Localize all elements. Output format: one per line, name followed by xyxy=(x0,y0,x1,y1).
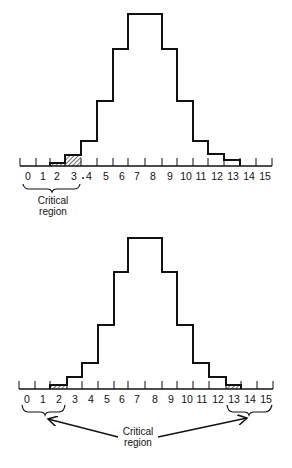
bottom-tick-label: 5 xyxy=(104,393,110,405)
figure: 0 1 2 3 4 5 6 7 8 9 10 11 12 13 14 15 Cr… xyxy=(0,0,292,468)
bottom-tick-label: 9 xyxy=(168,393,174,405)
bottom-tick-label: 4 xyxy=(88,393,94,405)
bottom-tick-label: 2 xyxy=(56,393,62,405)
bottom-tick-label: 13 xyxy=(228,393,240,405)
bottom-tick-label: 11 xyxy=(197,393,208,405)
top-tick-label: 8 xyxy=(150,170,156,182)
top-tick-label: 1 xyxy=(40,170,46,182)
bottom-tick-label: 7 xyxy=(134,393,140,405)
bottom-tick-label: 10 xyxy=(181,393,193,405)
top-tick-label: 4 xyxy=(86,170,92,182)
bottom-tick-label: 6 xyxy=(119,393,125,405)
bottom-annotation-line2: region xyxy=(124,437,152,448)
bottom-tick-label: 14 xyxy=(244,393,256,405)
top-tick-label: 7 xyxy=(134,170,140,182)
top-tick-label: 5 xyxy=(103,170,109,182)
top-critical-brace xyxy=(23,184,80,192)
top-chart: 0 1 2 3 4 5 6 7 8 9 10 11 12 13 14 15 Cr… xyxy=(20,14,272,217)
top-tick-label: 11 xyxy=(196,170,207,182)
left-arrow-icon xyxy=(48,419,118,437)
bottom-right-critical-brace xyxy=(227,405,272,415)
top-annotation-line1: Critical xyxy=(38,195,69,206)
bottom-tick-label: 3 xyxy=(72,393,78,405)
top-tick-label: 2 xyxy=(54,170,60,182)
top-tick-label: 3 xyxy=(71,170,77,182)
top-tick-label: 14 xyxy=(243,170,255,182)
dot-mark xyxy=(82,177,84,179)
top-tick-label: 13 xyxy=(227,170,239,182)
top-tick-label: 6 xyxy=(119,170,125,182)
bottom-tick-label: 0 xyxy=(24,393,30,405)
top-histogram-outline xyxy=(50,14,240,166)
bottom-tick-label: 8 xyxy=(152,393,158,405)
bottom-tick-label: 1 xyxy=(40,393,46,405)
bottom-tick-label: 12 xyxy=(212,393,224,405)
top-tick-label: 15 xyxy=(259,170,271,182)
top-tick-label: 0 xyxy=(25,170,31,182)
top-tick-label: 12 xyxy=(211,170,223,182)
right-arrow-icon xyxy=(158,418,247,437)
top-shaded-bin-3 xyxy=(65,155,81,166)
bottom-histogram-outline xyxy=(50,238,241,389)
bottom-left-critical-brace xyxy=(22,405,65,415)
top-tick-label: 9 xyxy=(167,170,173,182)
top-annotation-line2: region xyxy=(39,206,67,217)
bottom-chart: 0 1 2 3 4 5 6 7 8 9 10 11 12 13 14 15 Cr… xyxy=(19,238,273,448)
top-tick-label: 10 xyxy=(180,170,192,182)
bottom-annotation-line1: Critical xyxy=(123,426,154,437)
bottom-tick-label: 15 xyxy=(260,393,272,405)
